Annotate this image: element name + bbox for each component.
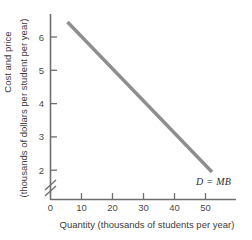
origin-label: 0: [48, 202, 53, 213]
y-axis-title-inner: (thousands of dollars per student per ye…: [18, 18, 29, 197]
y-tick-label-5: 5: [39, 65, 44, 76]
x-tick-label-40: 40: [169, 202, 180, 213]
curve-annotation-label: D = MB: [195, 176, 231, 187]
x-tick-label-30: 30: [138, 202, 149, 213]
demand-curve-chart: 6 5 4 3 2 0 10 20 30 40 50 D = MB Quanti…: [0, 0, 252, 240]
x-tick-label-50: 50: [200, 202, 211, 213]
y-axis-title-outer: Cost and price: [2, 31, 13, 92]
demand-curve-line: [68, 22, 213, 172]
x-tick-marks: [82, 193, 206, 200]
y-tick-marks: [51, 37, 58, 170]
y-tick-label-3: 3: [39, 131, 44, 142]
x-tick-label-20: 20: [107, 202, 118, 213]
y-tick-label-4: 4: [39, 98, 44, 109]
x-axis-title: Quantity (thousands of students per year…: [60, 219, 235, 230]
chart-figure: 6 5 4 3 2 0 10 20 30 40 50 D = MB Quanti…: [0, 0, 252, 240]
y-tick-label-6: 6: [39, 32, 44, 43]
y-tick-label-2: 2: [39, 165, 44, 176]
x-tick-label-10: 10: [76, 202, 87, 213]
